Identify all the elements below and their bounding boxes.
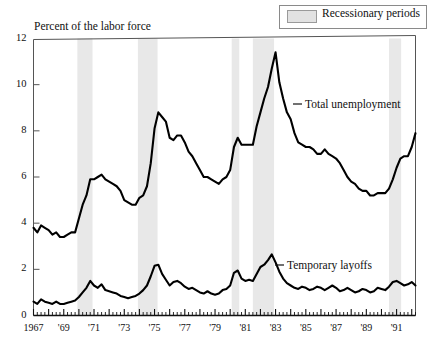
x-tick-label: '71	[77, 322, 111, 333]
x-tick-label: '87	[319, 322, 353, 333]
x-tick-label: '77	[168, 322, 202, 333]
y-tick-label: 2	[9, 262, 27, 273]
y-tick-label: 12	[9, 32, 27, 43]
x-tick-label: '85	[289, 322, 323, 333]
x-tick-label: '81	[228, 322, 262, 333]
x-tick-label: 1967	[17, 322, 51, 333]
x-tick-label: '73	[107, 322, 141, 333]
y-tick-label: 8	[9, 124, 27, 135]
x-tick-label: '91	[380, 322, 414, 333]
recession-band	[77, 39, 92, 316]
series-label-total-unemployment: Total unemployment	[305, 98, 400, 110]
y-tick-label: 4	[9, 216, 27, 227]
x-tick-label: '69	[47, 322, 81, 333]
label-leader-lines	[275, 104, 302, 265]
y-tick-label: 10	[9, 78, 27, 89]
x-tick-label: '89	[349, 322, 383, 333]
y-tick-label: 0	[9, 309, 27, 320]
x-tick-label: '79	[198, 322, 232, 333]
x-tick-label: '83	[259, 322, 293, 333]
chart-figure: Recessionary periods Percent of the labo…	[0, 0, 431, 353]
recession-band	[389, 39, 401, 316]
y-tick-label: 6	[9, 170, 27, 181]
x-tick-label: '75	[138, 322, 172, 333]
series-label-temporary-layoffs: Temporary layoffs	[287, 259, 372, 271]
plot-area	[0, 0, 431, 353]
